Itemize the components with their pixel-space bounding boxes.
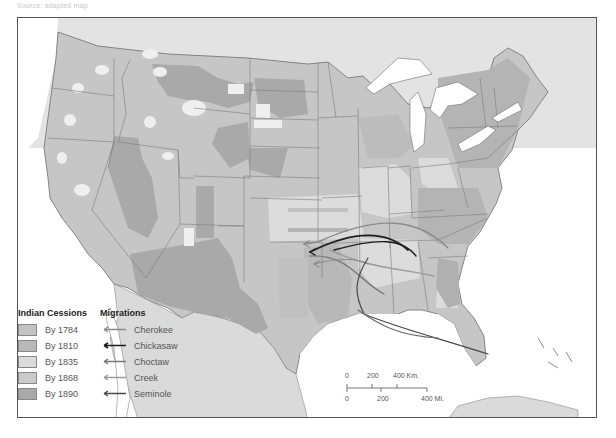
legend-label: Seminole bbox=[134, 389, 172, 399]
arrow-left-icon bbox=[102, 357, 128, 366]
legend-item-choctaw: Choctaw bbox=[102, 354, 169, 369]
swatch-1868 bbox=[18, 372, 37, 384]
legend-item-1890: By 1890 bbox=[18, 386, 78, 401]
scale-km-0: 0 bbox=[345, 372, 349, 379]
scale-mi-0: 0 bbox=[345, 395, 349, 402]
swatch-1810 bbox=[18, 340, 37, 352]
legend-item-1810: By 1810 bbox=[18, 338, 78, 353]
legend-label: By 1810 bbox=[45, 341, 78, 351]
legend-item-seminole: Seminole bbox=[102, 386, 172, 401]
legend-label: Cherokee bbox=[134, 325, 173, 335]
legend-item-creek: Creek bbox=[102, 370, 158, 385]
legend-label: By 1868 bbox=[45, 373, 78, 383]
scale-mi-400: 400 Mi. bbox=[421, 395, 444, 402]
scale-ruler bbox=[345, 382, 429, 394]
swatch-1784 bbox=[18, 324, 37, 336]
legend-label: Creek bbox=[134, 373, 158, 383]
legend-label: Chickasaw bbox=[134, 341, 178, 351]
arrow-left-icon bbox=[102, 373, 128, 382]
legend-item-cherokee: Cherokee bbox=[102, 322, 173, 337]
legend-label: Choctaw bbox=[134, 357, 169, 367]
map-caption: Source: adapted map bbox=[17, 2, 88, 9]
legend-item-1868: By 1868 bbox=[18, 370, 78, 385]
legend-label: By 1890 bbox=[45, 389, 78, 399]
swatch-1835 bbox=[18, 356, 37, 368]
scale-mi-200: 200 bbox=[377, 395, 389, 402]
scale-bar: 0 200 400 Km. 0 200 400 Mi. bbox=[321, 362, 461, 406]
legend-item-1835: By 1835 bbox=[18, 354, 78, 369]
arrow-left-icon bbox=[102, 341, 128, 350]
legend-label: By 1784 bbox=[45, 325, 78, 335]
scale-km-400: 400 Km. bbox=[393, 372, 419, 379]
swatch-1890 bbox=[18, 388, 37, 400]
scale-km-200: 200 bbox=[367, 372, 379, 379]
cessions-legend-title: Indian Cessions bbox=[18, 308, 87, 318]
legend-item-1784: By 1784 bbox=[18, 322, 78, 337]
arrow-left-icon bbox=[102, 389, 128, 398]
legend-item-chickasaw: Chickasaw bbox=[102, 338, 178, 353]
arrow-left-icon bbox=[102, 325, 128, 334]
legend-label: By 1835 bbox=[45, 357, 78, 367]
migrations-legend-title: Migrations bbox=[100, 308, 146, 318]
